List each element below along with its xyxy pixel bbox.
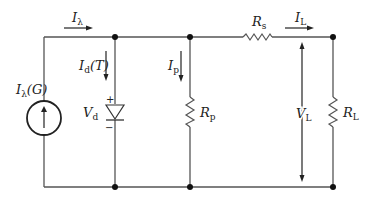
node-dot: [112, 184, 118, 190]
rp-resistor: [186, 97, 194, 127]
v-l-label: VL: [296, 106, 311, 123]
v-d-label: Vd: [83, 105, 98, 122]
diode: [106, 105, 124, 120]
node-dot: [330, 184, 336, 190]
i-p-label: Ip: [167, 58, 179, 75]
diode-minus-sign: −: [105, 122, 113, 133]
arrowhead-icon: [300, 42, 305, 49]
current-source: [27, 101, 61, 135]
i-d-label: Id(T): [78, 58, 109, 75]
i-lambda-label: Iλ: [71, 10, 83, 27]
rl-resistor: [329, 97, 337, 127]
diode-plus-sign: +: [106, 94, 114, 105]
r-p-label: Rp: [199, 105, 216, 122]
source-label: Iλ(G): [15, 82, 47, 99]
i-l-label: IL: [294, 10, 306, 27]
r-s-label: Rs: [251, 14, 267, 31]
arrowhead-icon: [86, 26, 93, 31]
node-dot: [112, 34, 118, 40]
arrowhead-icon: [104, 74, 109, 81]
arrowhead-icon: [300, 175, 305, 182]
rs-resistor: [243, 34, 272, 40]
arrowhead-icon: [179, 75, 184, 82]
node-dot: [330, 34, 336, 40]
diode-triangle-icon: [106, 105, 124, 119]
node-dot: [187, 34, 193, 40]
arrowhead-icon: [307, 26, 314, 31]
circuit-diagram: Iλ Iλ(G) Id(T) Vd + − Ip Rp Rs IL VL RL: [0, 0, 366, 201]
node-dot: [187, 184, 193, 190]
r-l-label: RL: [342, 105, 359, 122]
